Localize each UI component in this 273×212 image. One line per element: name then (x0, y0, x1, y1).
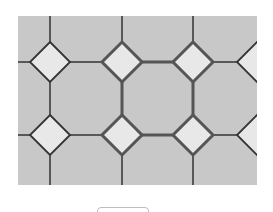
action-button[interactable] (97, 207, 149, 212)
tile-pattern-board[interactable] (0, 0, 273, 212)
board-background (18, 16, 257, 185)
